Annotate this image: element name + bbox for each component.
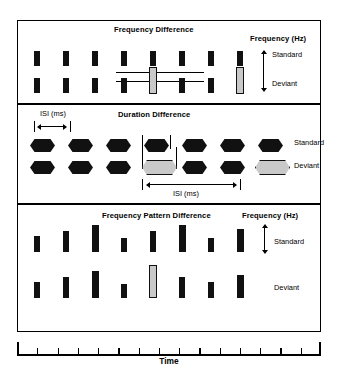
- isi-arrow-top: [40, 126, 64, 127]
- tone-bar: [237, 51, 243, 66]
- tone-bar-deviant: [236, 67, 244, 94]
- row-label-deviant: Deviant: [272, 79, 297, 88]
- legend-title-frequency-hz-bottom: Frequency (Hz): [242, 211, 298, 220]
- axis-tick: [260, 348, 261, 356]
- axis-tick: [280, 348, 281, 356]
- tone-bar: [34, 282, 40, 298]
- tone-bar: [121, 238, 127, 252]
- axis-tick: [179, 348, 180, 356]
- tone-bar-deviant: [149, 265, 157, 298]
- tone-hexagon: [182, 139, 207, 152]
- tone-bar: [150, 231, 156, 252]
- frequency-axis-arrow-bottom: [264, 227, 265, 251]
- tone-bar: [179, 51, 185, 66]
- tone-bar: [92, 78, 98, 93]
- tone-hexagon: [30, 139, 55, 152]
- tone-bar: [237, 275, 244, 298]
- axis-label-time: Time: [0, 356, 338, 366]
- tone-hexagon-deviant: [142, 160, 177, 175]
- legend-title-frequency-hz-top: Frequency (Hz): [250, 34, 306, 43]
- tone-bar: [63, 231, 69, 252]
- tone-hexagon: [220, 161, 245, 174]
- isi-tick-left-bottom: [142, 179, 143, 190]
- figure-canvas: Frequency Difference Frequency (Hz) Stan…: [0, 0, 338, 380]
- tone-bar: [92, 51, 98, 66]
- tone-bar: [92, 225, 99, 252]
- tone-bar: [208, 238, 214, 252]
- axis-end-left: [17, 342, 19, 356]
- axis-tick: [159, 348, 160, 356]
- tone-bar: [63, 78, 69, 93]
- tone-bar: [237, 229, 244, 252]
- axis-tick: [240, 348, 241, 356]
- row-label-deviant: Deviant: [274, 283, 299, 292]
- axis-tick: [220, 348, 221, 356]
- isi-label-top: ISI (ms): [40, 109, 66, 118]
- panel-title-frequency-pattern-difference: Frequency Pattern Difference: [102, 211, 211, 220]
- tone-bar: [208, 78, 214, 93]
- tone-bar: [34, 78, 40, 93]
- tone-bar: [34, 236, 40, 252]
- isi-tick-left: [34, 121, 35, 132]
- panel-duration-difference: Duration Difference ISI (ms) ISI (ms) St…: [17, 104, 321, 204]
- duration-marker-standard-right: [170, 135, 171, 149]
- tone-hexagon: [144, 139, 169, 152]
- tone-bar: [121, 284, 127, 298]
- tone-bar: [179, 225, 186, 252]
- panel-title-duration-difference: Duration Difference: [118, 110, 190, 119]
- tone-bar: [208, 51, 214, 66]
- axis-tick: [58, 348, 59, 356]
- time-axis: [17, 332, 321, 356]
- tone-hexagon: [258, 139, 283, 152]
- axis-tick: [98, 348, 99, 356]
- tone-bar: [121, 51, 127, 66]
- isi-tick-right-bottom: [240, 179, 241, 190]
- duration-marker-deviant-right: [176, 147, 177, 169]
- tone-hexagon-deviant: [255, 160, 290, 175]
- tone-bar: [92, 271, 99, 298]
- row-label-standard: Standard: [294, 138, 324, 147]
- row-label-deviant: Deviant: [294, 161, 319, 170]
- tone-bar: [179, 277, 185, 298]
- duration-marker-left: [142, 135, 143, 169]
- tone-bar: [179, 78, 185, 93]
- tone-hexagon: [106, 139, 131, 152]
- tone-bar: [121, 78, 127, 93]
- frequency-reference-line-standard: [116, 72, 204, 73]
- tone-bar: [208, 282, 214, 298]
- isi-label-bottom: ISI (ms): [173, 189, 199, 198]
- tone-bar: [150, 51, 156, 66]
- axis-tick: [139, 348, 140, 356]
- tone-hexagon: [182, 161, 207, 174]
- axis-tick: [301, 348, 302, 356]
- axis-tick: [78, 348, 79, 356]
- tone-hexagon: [68, 139, 93, 152]
- tone-bar-deviant: [149, 67, 157, 94]
- tone-hexagon: [106, 161, 131, 174]
- tone-bar: [63, 277, 69, 298]
- row-label-standard: Standard: [274, 237, 304, 246]
- tone-bar: [34, 51, 40, 66]
- frequency-reference-line-deviant: [116, 81, 204, 82]
- axis-end-right: [319, 342, 321, 356]
- row-label-standard: Standard: [272, 50, 302, 59]
- tone-bar: [63, 51, 69, 66]
- tone-hexagon: [68, 161, 93, 174]
- frequency-axis-arrow-top: [263, 53, 264, 89]
- isi-tick-right: [70, 121, 71, 132]
- panel-title-frequency-difference: Frequency Difference: [114, 25, 194, 34]
- axis-tick: [37, 348, 38, 356]
- panel-frequency-difference: Frequency Difference Frequency (Hz) Stan…: [17, 20, 321, 104]
- axis-tick: [199, 348, 200, 356]
- panel-frequency-pattern-difference: Frequency Pattern Difference Frequency (…: [17, 204, 321, 332]
- axis-tick: [118, 348, 119, 356]
- isi-arrow-bottom: [149, 184, 234, 185]
- tone-hexagon: [30, 161, 55, 174]
- tone-hexagon: [220, 139, 245, 152]
